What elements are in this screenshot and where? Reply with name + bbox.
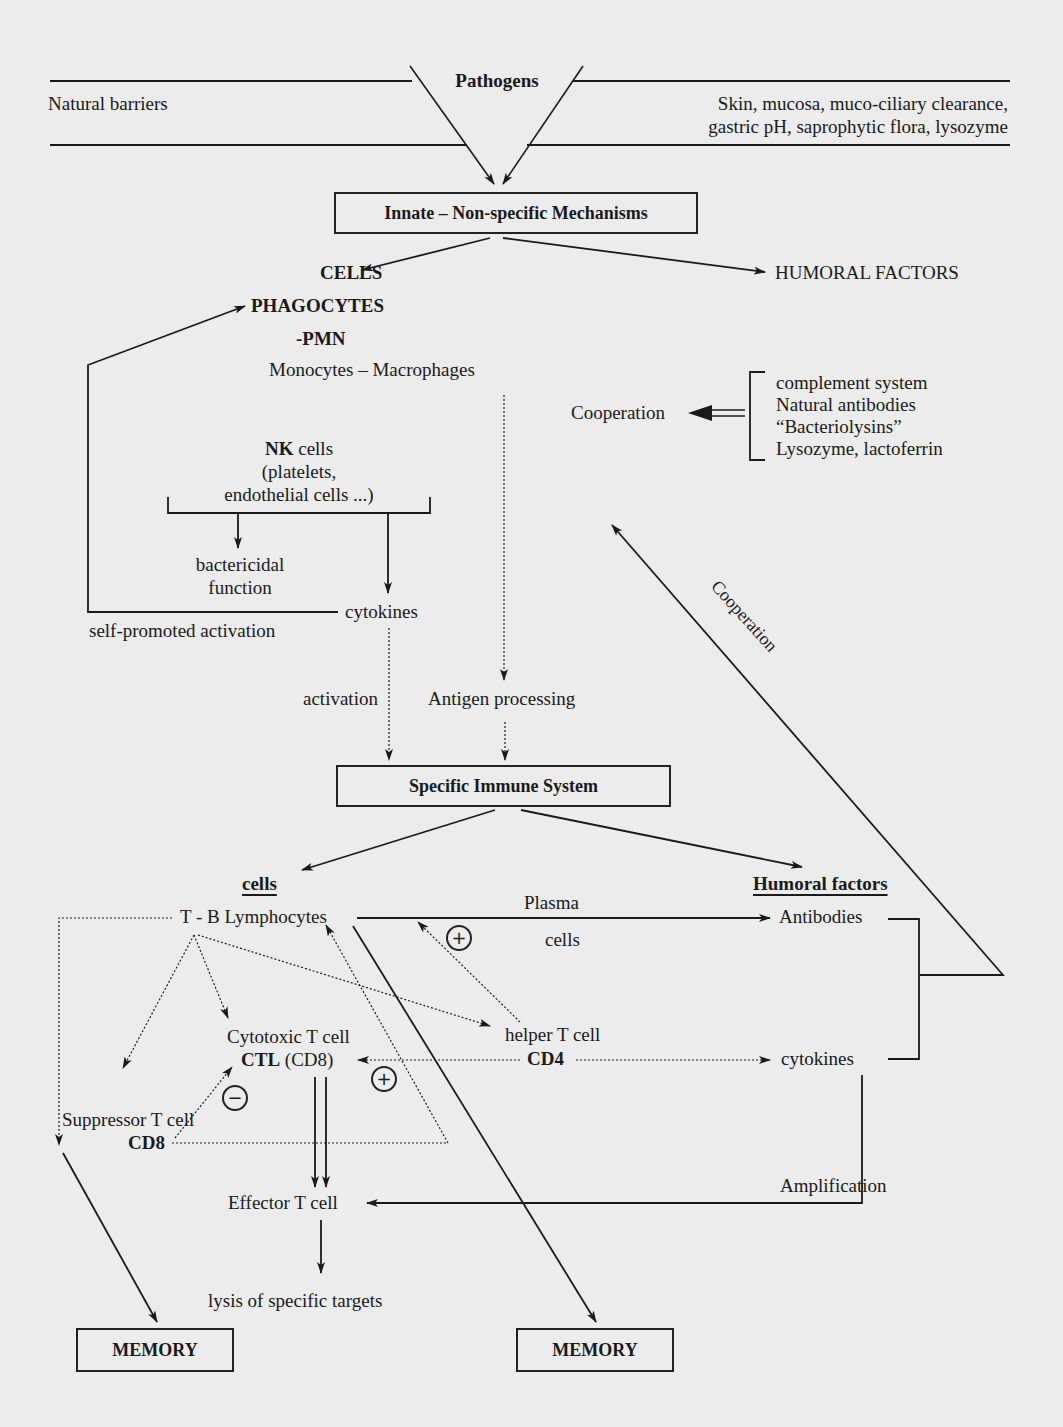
effector-t-cell-label: Effector T cell — [228, 1192, 338, 1214]
phagocytes-label: PHAGOCYTES — [251, 295, 384, 317]
nk-line3: endothelial cells ...) — [224, 483, 373, 506]
specific-cytokines-label: cytokines — [781, 1048, 854, 1070]
humoral-factors-list: complement system Natural antibodies “Ba… — [776, 372, 943, 460]
ctl-rest: (CD8) — [280, 1049, 333, 1070]
suppressor-cd8-label: CD8 — [128, 1132, 165, 1154]
specific-humoral-heading: Humoral factors — [753, 873, 888, 895]
plus-sign-icon: + — [446, 925, 472, 951]
activation-label: activation — [303, 688, 378, 710]
nk-cells-label: NK cells (platelets, endothelial cells .… — [224, 437, 373, 506]
cd4-label: CD4 — [527, 1048, 564, 1070]
humoral-item: Natural antibodies — [776, 394, 943, 416]
specific-immune-system-box: Specific Immune System — [336, 765, 671, 807]
barrier-examples-line1: Skin, mucosa, muco-ciliary clearance, — [708, 92, 1008, 115]
ctl-cd8-label: CTL (CD8) — [241, 1049, 333, 1071]
nk-rest: cells — [293, 438, 333, 459]
pmn-label: -PMN — [296, 328, 346, 350]
innate-mechanisms-box: Innate – Non-specific Mechanisms — [334, 192, 698, 234]
humoral-item: Lysozyme, lactoferrin — [776, 438, 943, 460]
helper-t-cell-label: helper T cell — [505, 1024, 600, 1046]
self-promoted-activation-label: self-promoted activation — [89, 620, 275, 642]
nk-line2: (platelets, — [224, 460, 373, 483]
humoral-factors-label: HUMORAL FACTORS — [775, 262, 959, 284]
bactericidal-line2: function — [196, 576, 285, 599]
barrier-examples: Skin, mucosa, muco-ciliary clearance, ga… — [708, 92, 1008, 138]
humoral-item: complement system — [776, 372, 943, 394]
antibodies-label: Antibodies — [779, 906, 862, 928]
ctl-bold: CTL — [241, 1049, 280, 1070]
memory-box-right: MEMORY — [516, 1328, 674, 1372]
humoral-item: “Bacteriolysins” — [776, 416, 943, 438]
amplification-label: Amplification — [780, 1175, 887, 1197]
innate-cytokines-label: cytokines — [345, 601, 418, 623]
specific-cells-heading: cells — [242, 873, 277, 895]
innate-cooperation-label: Cooperation — [571, 402, 665, 424]
cooperation-diagonal-label: Cooperation — [707, 576, 781, 656]
nk-bold: NK — [265, 438, 294, 459]
plasma-label: Plasma — [524, 892, 579, 914]
minus-sign-icon: − — [222, 1085, 248, 1111]
plasma-cells-label: cells — [545, 929, 580, 951]
natural-barriers-label: Natural barriers — [48, 93, 168, 115]
cells-label: CELLS — [320, 262, 382, 284]
barrier-examples-line2: gastric pH, saprophytic flora, lysozyme — [708, 115, 1008, 138]
lysis-label: lysis of specific targets — [208, 1290, 382, 1312]
antigen-processing-label: Antigen processing — [428, 688, 575, 710]
bactericidal-function-label: bactericidal function — [196, 553, 285, 599]
suppressor-t-cell-label: Suppressor T cell — [62, 1109, 194, 1131]
memory-box-left: MEMORY — [76, 1328, 234, 1372]
bactericidal-line1: bactericidal — [196, 553, 285, 576]
monocytes-macrophages-label: Monocytes – Macrophages — [269, 359, 475, 381]
plus-sign-icon: + — [371, 1066, 397, 1092]
pathogens-label: Pathogens — [455, 70, 538, 92]
tb-lymphocytes-label: T - B Lymphocytes — [180, 906, 327, 928]
cytotoxic-t-cell-label: Cytotoxic T cell — [227, 1026, 350, 1048]
